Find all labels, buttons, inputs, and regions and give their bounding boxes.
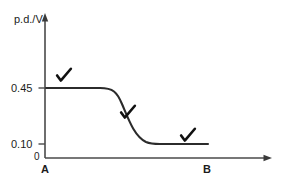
x-axis-label-b: B (203, 164, 211, 175)
y-tick-marks (39, 88, 46, 144)
x-axis (45, 155, 272, 161)
y-axis-title: p.d./V (14, 14, 43, 25)
x-axis-label-a: A (41, 164, 49, 175)
annotation-check-marks (57, 67, 195, 141)
graph-figure: p.d./V 0.45 0.10 0 A B (0, 0, 286, 187)
check-mark-1 (57, 67, 71, 81)
check-mark-3 (181, 127, 195, 141)
y-tick-label-010: 0.10 (11, 139, 32, 150)
plot-canvas (0, 0, 286, 187)
origin-label: 0 (34, 152, 40, 162)
y-tick-label-045: 0.45 (11, 83, 32, 94)
y-axis (42, 13, 48, 158)
